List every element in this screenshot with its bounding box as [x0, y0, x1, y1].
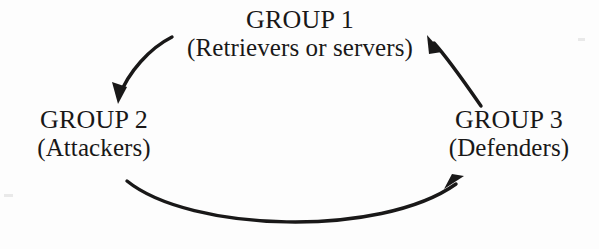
- three-group-cycle-diagram: GROUP 1 (Retrievers or servers) GROUP 2 …: [0, 0, 599, 249]
- node-group2: GROUP 2 (Attackers): [14, 106, 174, 161]
- node-group1: GROUP 1 (Retrievers or servers): [155, 6, 445, 61]
- node-group1-title: GROUP 1: [155, 6, 445, 34]
- scan-artifact-speck-left: [4, 194, 13, 197]
- node-group2-subtitle: (Attackers): [14, 134, 174, 161]
- arrow-group2-to-group3-path: [127, 181, 456, 222]
- node-group3-subtitle: (Defenders): [428, 134, 590, 161]
- scan-artifact-speck-right: [578, 38, 585, 41]
- node-group3-title: GROUP 3: [428, 106, 590, 134]
- node-group2-title: GROUP 2: [14, 106, 174, 134]
- node-group1-subtitle: (Retrievers or servers): [155, 34, 445, 61]
- node-group3: GROUP 3 (Defenders): [428, 106, 590, 161]
